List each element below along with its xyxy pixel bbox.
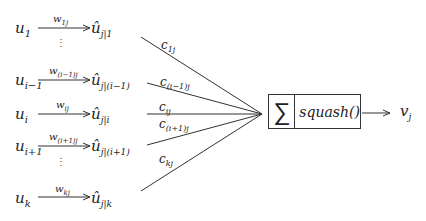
input-u-1: u1 — [15, 21, 31, 39]
squash-function-label: squash() — [295, 95, 360, 128]
weight-label-i-plus-1: w(i+1)j — [49, 132, 78, 145]
weight-label-i: wij — [56, 100, 69, 113]
input-u-i-plus-1: ui+1 — [15, 139, 43, 157]
input-u-k: uk — [15, 191, 31, 209]
coupling-label-i: cij — [159, 101, 171, 116]
prediction-label-1: ûj|1 — [91, 21, 112, 39]
weight-label-i-minus-1: w(i−1)j — [49, 66, 78, 79]
ellipsis-lower: ⋮ — [56, 160, 62, 164]
ellipsis-upper: ⋮ — [56, 41, 62, 45]
prediction-label-i-plus-1: ûj|(i+1) — [91, 139, 130, 157]
summation-symbol: ∑ — [269, 95, 295, 128]
coupling-label-1: c1j — [161, 39, 175, 54]
coupling-label-i-minus-1: c(i−1)j — [160, 76, 190, 91]
input-u-i: ui — [15, 107, 28, 125]
prediction-label-k: ûj|k — [91, 191, 112, 209]
prediction-label-i-minus-1: ûj|(i−1) — [91, 73, 130, 91]
sum-squash-box: ∑ squash() — [268, 94, 361, 129]
capsule-routing-diagram: u1 w1j ûj|1 ⋮ ui−1 w(i−1)j ûj|(i−1) ui w… — [0, 0, 426, 221]
output-v-j: vj — [400, 104, 411, 122]
coupling-label-i-plus-1: c(i+1)j — [159, 118, 189, 133]
weight-label-k: wkj — [55, 184, 70, 197]
coupling-label-k: ckj — [159, 153, 173, 168]
weight-label-1: w1j — [53, 14, 68, 27]
prediction-label-i: ûj|i — [91, 107, 109, 125]
input-u-i-minus-1: ui−1 — [15, 73, 43, 91]
